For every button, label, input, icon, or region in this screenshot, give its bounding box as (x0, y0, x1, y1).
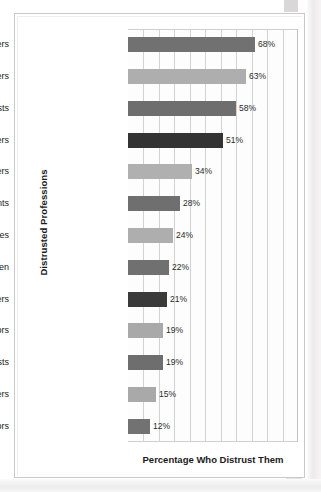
bar-row: 34% (128, 164, 297, 179)
bar-value-label: 15% (156, 387, 176, 402)
category-label: Lawyers (0, 39, 9, 50)
category-label: Judges (0, 230, 9, 241)
bar-row: 51% (128, 133, 297, 148)
category-label: Bankers (0, 166, 9, 177)
bar-value-label: 51% (223, 133, 243, 148)
category-label: T.V. newscasters (0, 135, 9, 146)
bar (128, 228, 173, 243)
category-label: Police officers (0, 294, 9, 305)
bar-value-label: 24% (173, 228, 193, 243)
bar-value-label: 34% (192, 164, 212, 179)
page-edge-shadow-right (307, 0, 321, 492)
bar (128, 323, 163, 338)
bar-row: 15% (128, 387, 297, 402)
bar (128, 37, 255, 52)
bar (128, 419, 150, 434)
bar-value-label: 19% (163, 355, 183, 370)
bar-value-label: 12% (150, 419, 170, 434)
category-label: Journalists (0, 103, 9, 114)
x-axis-title: Percentage Who Distrust Them (128, 454, 298, 465)
category-label: Clergymen (0, 262, 9, 273)
bar-value-label: 58% (236, 101, 256, 116)
category-label: Professors (0, 325, 9, 336)
bar (128, 292, 167, 307)
page-edge-shadow-bottom (0, 479, 321, 492)
bar-row: 63% (128, 69, 297, 84)
plot-bottom-border (128, 441, 297, 442)
category-label: Teachers (0, 389, 9, 400)
bar (128, 260, 169, 275)
bar-value-label: 63% (246, 69, 266, 84)
bar (128, 101, 236, 116)
bar (128, 133, 223, 148)
bar-value-label: 68% (255, 37, 275, 52)
category-label: Accountants (0, 198, 9, 209)
category-label: Doctors (0, 421, 9, 432)
bar-row: 28% (128, 196, 297, 211)
page-corner-mark-top (284, 0, 298, 12)
bar-row: 21% (128, 292, 297, 307)
bar-row: 12% (128, 419, 297, 434)
bar-row: 19% (128, 323, 297, 338)
bar-value-label: 19% (163, 323, 183, 338)
bar (128, 164, 192, 179)
bar (128, 196, 180, 211)
y-axis-title: Distrusted Professions (38, 143, 49, 303)
bar-row: 68% (128, 37, 297, 52)
bar-row: 24% (128, 228, 297, 243)
category-label: Scientists (0, 357, 9, 368)
plot-top-border (128, 29, 297, 30)
category-label: Congressional members (0, 71, 9, 82)
plot-area: 68%63%58%51%34%28%24%22%21%19%19%15%12% (128, 29, 298, 442)
bar (128, 355, 163, 370)
bar-value-label: 28% (180, 196, 200, 211)
bar (128, 69, 246, 84)
bar-row: 19% (128, 355, 297, 370)
bar (128, 387, 156, 402)
bar-row: 22% (128, 260, 297, 275)
bar-value-label: 22% (169, 260, 189, 275)
bar-value-label: 21% (167, 292, 187, 307)
bar-chart: Distrusted Professions 68%63%58%51%34%28… (14, 13, 305, 478)
bar-row: 58% (128, 101, 297, 116)
scanned-page: Distrusted Professions 68%63%58%51%34%28… (0, 0, 321, 492)
